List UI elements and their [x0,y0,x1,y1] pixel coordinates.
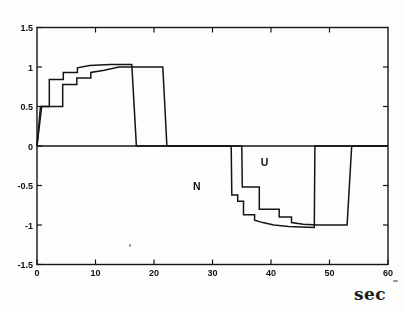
x-tick-label: 50 [324,268,334,278]
curve-label-N: N [193,180,201,192]
x-tick-label: 0 [34,268,39,278]
y-tick-label: -1 [25,221,33,231]
x-tick-label: 20 [149,268,159,278]
chart-canvas: 01020304050601.510.50-0.5-1-1.5NU [0,0,403,312]
y-tick-label: 0.5 [20,102,33,112]
curve-label-U: U [261,156,269,168]
x-axis-unit-label: sec [345,284,395,304]
scan-speck [393,280,398,282]
x-tick-label: 60 [383,268,393,278]
scan-speck [129,244,131,247]
scanned-figure-page: 01020304050601.510.50-0.5-1-1.5NU sec [0,0,403,312]
y-tick-label: 0 [28,142,33,152]
y-tick-label: 1.5 [20,23,33,33]
x-tick-label: 10 [90,268,100,278]
y-tick-label: -1.5 [17,260,33,270]
x-tick-label: 40 [266,268,276,278]
x-tick-label: 30 [207,268,217,278]
y-tick-label: 1 [28,63,33,73]
y-tick-label: -0.5 [17,181,33,191]
